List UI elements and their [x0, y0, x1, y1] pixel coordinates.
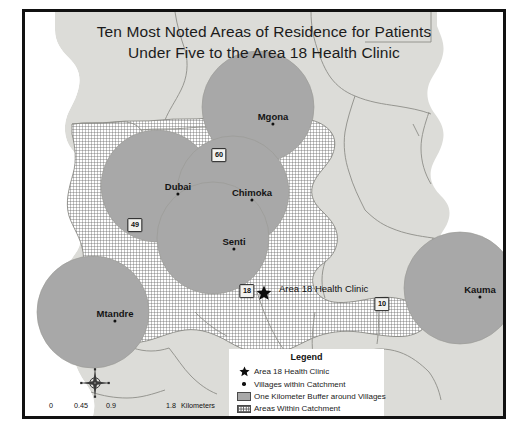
legend-label-catchment: Areas Within Catchment: [254, 404, 340, 413]
legend-item-catchment: Areas Within Catchment: [229, 403, 384, 415]
area-18-health-clinic-star-icon[interactable]: [256, 285, 272, 305]
scale-bar: 0 0.45 0.9 1.8 Kilometers: [51, 401, 187, 419]
scale-tick-2: 0.9: [106, 401, 116, 410]
scale-tick-1: 0.45: [74, 401, 88, 410]
legend-label-clinic: Area 18 Health Clinic: [254, 367, 329, 376]
legend-label-lilongwe: Lilongwe, Malawi: [254, 417, 315, 419]
star-glyph: [239, 366, 250, 377]
legend-label-buffer: One Kilometer Buffer around Villages: [254, 392, 386, 401]
buffer-swatch: [237, 392, 251, 401]
legend-label-villages: Villages within Catchment: [254, 380, 345, 389]
dot-glyph: [242, 382, 245, 385]
lilongwe-swatch-icon: [234, 417, 254, 419]
village-label: Dubai: [165, 181, 191, 192]
village-label: Senti: [222, 236, 245, 247]
road-shield-10: 10: [374, 297, 389, 311]
catchment-swatch-icon: [234, 405, 254, 414]
buffer-swatch-icon: [234, 392, 254, 401]
scale-tick-0: 0: [49, 401, 53, 410]
compass-rose-icon: [78, 367, 112, 399]
village-label: Chimoka: [232, 187, 272, 198]
legend: Legend Area 18 Health Clinic Villages wi…: [229, 349, 384, 419]
star-icon: [234, 366, 254, 377]
scale-tick-3: 1.8: [166, 401, 176, 410]
road-shield-60: 60: [211, 148, 226, 162]
dot-icon: [234, 382, 254, 385]
legend-title: Legend: [229, 352, 384, 362]
legend-item-buffer: One Kilometer Buffer around Villages: [229, 390, 384, 402]
lilongwe-swatch: [237, 417, 251, 419]
star-icon: [256, 285, 272, 301]
village-label: Kauma: [464, 284, 496, 295]
map-frame: Ten Most Noted Areas of Residence for Pa…: [22, 9, 506, 419]
legend-item-lilongwe: Lilongwe, Malawi: [229, 415, 384, 419]
road-shield-49: 49: [127, 218, 142, 232]
north-arrow-compass: [78, 367, 112, 403]
legend-item-clinic: Area 18 Health Clinic: [229, 366, 384, 378]
scale-bar-labels: 0 0.45 0.9 1.8 Kilometers: [51, 401, 187, 411]
scale-unit-label: Kilometers: [181, 401, 215, 410]
clinic-label: Area 18 Health Clinic: [279, 283, 368, 294]
catchment-swatch: [237, 405, 251, 414]
scale-bar-ticks-icon: [51, 417, 173, 419]
village-label: Mtandre: [97, 308, 134, 319]
legend-item-villages: Villages within Catchment: [229, 378, 384, 390]
village-label: Mgona: [258, 111, 289, 122]
road-shield-18: 18: [239, 284, 254, 298]
scale-bar-graphic: [51, 412, 171, 419]
